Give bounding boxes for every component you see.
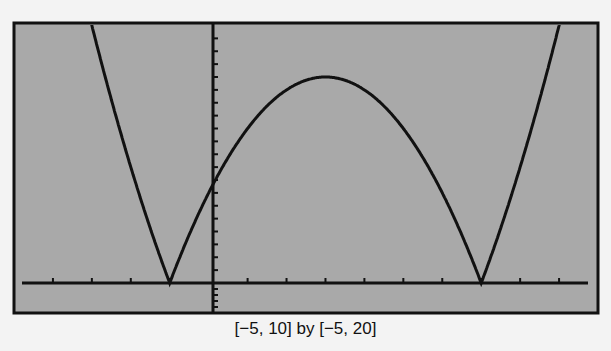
window-caption: [−5, 10] by [−5, 20] <box>0 319 611 339</box>
graph-figure: [−5, 10] by [−5, 20] <box>0 0 611 351</box>
graphing-calculator-screen <box>0 0 611 351</box>
